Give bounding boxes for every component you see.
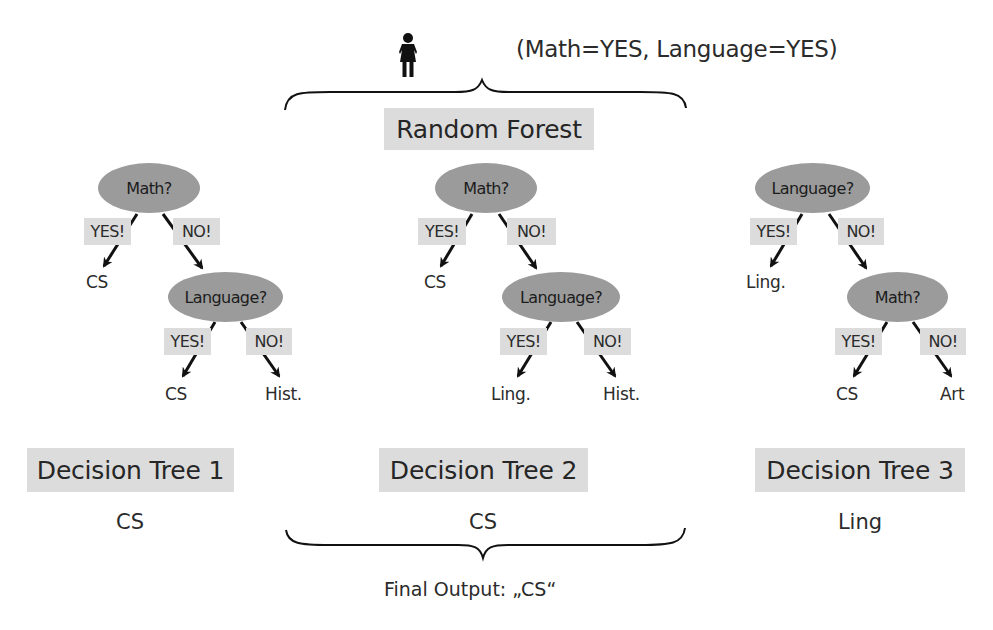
tree2-child-no-leaf: Hist.: [603, 384, 640, 404]
tree1-child-yes-label: YES!: [164, 328, 211, 355]
tree1-child-yes-leaf: CS: [165, 384, 187, 404]
tree2-root-node: Math?: [435, 163, 537, 213]
tree2-root-no-label: NO!: [507, 218, 556, 245]
tree2-root-yes-leaf: CS: [424, 272, 446, 292]
query-features: (Math=YES, Language=YES): [516, 36, 837, 62]
random-forest-title: Random Forest: [384, 108, 594, 150]
tree1-result: CS: [100, 510, 160, 534]
tree1-child-node: Language?: [168, 272, 283, 322]
tree3-child-yes-leaf: CS: [836, 384, 858, 404]
tree2-child-yes-leaf: Ling.: [491, 384, 531, 404]
person-female-icon: [399, 33, 417, 77]
tree2-child-yes-label: YES!: [500, 328, 547, 355]
tree1-child-no-label: NO!: [246, 328, 292, 355]
final-output: Final Output: „CS“: [384, 578, 556, 600]
tree1-title: Decision Tree 1: [27, 448, 234, 492]
tree1-child-no-leaf: Hist.: [265, 384, 302, 404]
tree1-root-yes-leaf: CS: [86, 272, 108, 292]
tree3-title: Decision Tree 3: [755, 448, 965, 492]
diagram-graphics: [0, 0, 993, 630]
tree2-result: CS: [453, 510, 513, 534]
tree3-root-yes-leaf: Ling.: [746, 272, 786, 292]
tree3-root-no-label: NO!: [838, 218, 884, 245]
tree3-child-node: Math?: [847, 272, 948, 322]
tree3-root-yes-label: YES!: [750, 218, 797, 245]
tree1-root-no-label: NO!: [173, 218, 220, 245]
tree3-child-no-leaf: Art: [940, 384, 964, 404]
tree3-result: Ling: [825, 510, 895, 534]
tree2-child-node: Language?: [502, 272, 620, 322]
tree1-root-yes-label: YES!: [84, 218, 131, 245]
tree2-title: Decision Tree 2: [379, 448, 588, 492]
tree2-root-yes-label: YES!: [418, 218, 466, 245]
tree3-child-no-label: NO!: [920, 328, 966, 355]
top-brace: [285, 80, 686, 110]
tree3-child-yes-label: YES!: [835, 328, 882, 355]
tree3-root-node: Language?: [755, 163, 870, 213]
tree2-child-no-label: NO!: [584, 328, 631, 355]
tree1-root-node: Math?: [98, 163, 200, 213]
